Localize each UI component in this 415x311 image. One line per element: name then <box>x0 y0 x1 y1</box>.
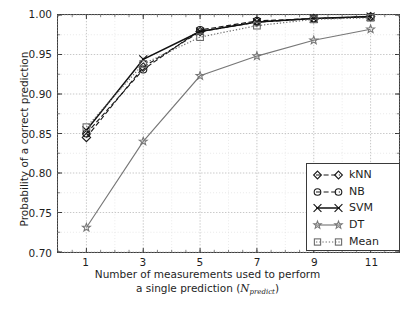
legend-item-mean[interactable]: Mean <box>311 233 395 250</box>
legend: kNNNBSVMDTMean <box>306 163 400 251</box>
x-tick-label: 1 <box>82 256 89 268</box>
x-axis-label-subscript: predict <box>249 288 274 296</box>
x-tick-label: 9 <box>311 256 318 268</box>
x-axis-label-line1: Number of measurements used to perform <box>0 268 415 282</box>
x-axis-label: Number of measurements used to perform a… <box>0 268 415 299</box>
legend-sample-svm <box>311 200 345 216</box>
legend-sample-nb <box>311 184 345 200</box>
legend-item-dt[interactable]: DT <box>311 217 395 234</box>
y-axis-label: Probability of a correct prediction <box>18 19 30 259</box>
legend-label: Mean <box>349 234 379 250</box>
legend-sample-dt <box>311 217 345 233</box>
x-tick-label: 3 <box>139 256 146 268</box>
legend-label: NB <box>349 184 365 200</box>
x-tick-label: 11 <box>365 256 378 268</box>
x-axis-label-suffix: ) <box>275 282 279 294</box>
x-tick-label: 7 <box>254 256 261 268</box>
legend-item-svm[interactable]: SVM <box>311 200 395 217</box>
x-axis-label-line2: a single prediction (Npredict) <box>0 282 415 300</box>
legend-label: kNN <box>349 167 372 183</box>
legend-sample-mean <box>311 234 345 250</box>
legend-sample-knn <box>311 167 345 183</box>
legend-item-nb[interactable]: NB <box>311 184 395 201</box>
legend-item-knn[interactable]: kNN <box>311 167 395 184</box>
figure: 0.700.750.800.850.900.951.00 1357911 Pro… <box>0 0 415 311</box>
legend-label: SVM <box>349 200 373 216</box>
legend-label: DT <box>349 217 364 233</box>
x-axis-label-prefix: a single prediction ( <box>136 282 240 294</box>
x-tick-label: 5 <box>197 256 204 268</box>
